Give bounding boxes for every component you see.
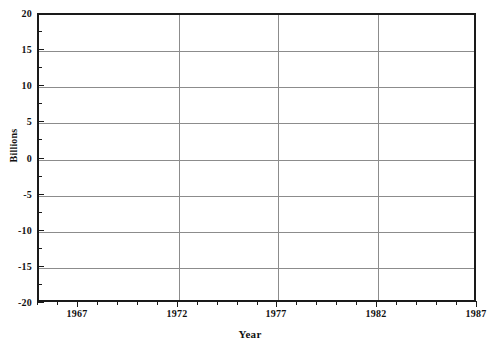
y-tick-label-20: 20 — [0, 8, 32, 19]
gridline-y-0 — [39, 160, 474, 161]
data-series-layer — [39, 15, 474, 300]
x-axis-label: Year — [0, 328, 500, 340]
y-tick-neg12_5 — [38, 248, 42, 249]
y-tick-0 — [38, 158, 44, 159]
x-tick-label-1982: 1982 — [366, 308, 387, 319]
y-axis-label: Billions — [8, 111, 19, 181]
x-tick-label-1967: 1967 — [67, 308, 88, 319]
y-tick-label-neg10: -10 — [0, 225, 32, 236]
y-tick-neg17_5 — [38, 284, 42, 285]
y-tick-neg2_5 — [38, 176, 42, 177]
gridline-y-neg5 — [39, 196, 474, 197]
y-tick-15 — [38, 49, 44, 50]
x-tick-label-1987: 1987 — [466, 308, 487, 319]
y-tick-label-15: 15 — [0, 44, 32, 55]
x-tick-1974 — [217, 301, 218, 305]
gridline-x-1972 — [179, 15, 180, 300]
y-tick-neg10 — [38, 230, 44, 231]
x-tick-1967 — [77, 301, 78, 307]
y-tick-label-neg5: -5 — [0, 189, 32, 200]
x-tick-1970 — [137, 301, 138, 305]
chart-figure: 19671972197719821987 20151050-5-10-15-20… — [0, 0, 500, 357]
x-tick-label-1977: 1977 — [266, 308, 287, 319]
y-tick-12_5 — [38, 67, 42, 68]
x-tick-1972 — [177, 301, 178, 307]
x-tick-label-1972: 1972 — [167, 308, 188, 319]
y-tick-10 — [38, 85, 44, 86]
chart-title — [0, 0, 500, 11]
y-tick-label-neg20: -20 — [0, 297, 32, 308]
x-tick-1980 — [336, 301, 337, 305]
y-tick-neg15 — [38, 266, 44, 267]
y-tick-neg20 — [38, 302, 44, 303]
y-tick-neg5 — [38, 194, 44, 195]
x-tick-1969 — [117, 301, 118, 305]
y-tick-label-neg15: -15 — [0, 261, 32, 272]
y-tick-17_5 — [38, 31, 42, 32]
x-tick-1987 — [476, 301, 477, 307]
gridline-y-neg10 — [39, 232, 474, 233]
x-tick-1978 — [296, 301, 297, 305]
x-tick-1977 — [276, 301, 277, 307]
x-tick-1986 — [456, 301, 457, 305]
x-tick-1983 — [396, 301, 397, 305]
x-tick-1981 — [356, 301, 357, 305]
y-tick-7_5 — [38, 103, 42, 104]
x-tick-1966 — [57, 301, 58, 305]
y-tick-label-10: 10 — [0, 80, 32, 91]
x-tick-1976 — [257, 301, 258, 305]
y-tick-neg7_5 — [38, 212, 42, 213]
x-tick-1985 — [436, 301, 437, 305]
gridline-x-1982 — [378, 15, 379, 300]
y-tick-20 — [38, 13, 44, 14]
x-tick-1973 — [197, 301, 198, 305]
gridline-y-15 — [39, 51, 474, 52]
gridline-y-neg15 — [39, 268, 474, 269]
x-tick-1984 — [416, 301, 417, 305]
x-tick-1979 — [316, 301, 317, 305]
gridline-y-10 — [39, 87, 474, 88]
x-tick-1982 — [376, 301, 377, 307]
x-tick-1971 — [157, 301, 158, 305]
x-tick-1968 — [97, 301, 98, 305]
gridline-y-5 — [39, 123, 474, 124]
gridline-x-1977 — [278, 15, 279, 300]
y-tick-2_5 — [38, 139, 42, 140]
plot-area — [37, 13, 476, 302]
x-tick-1975 — [237, 301, 238, 305]
y-tick-5 — [38, 121, 44, 122]
